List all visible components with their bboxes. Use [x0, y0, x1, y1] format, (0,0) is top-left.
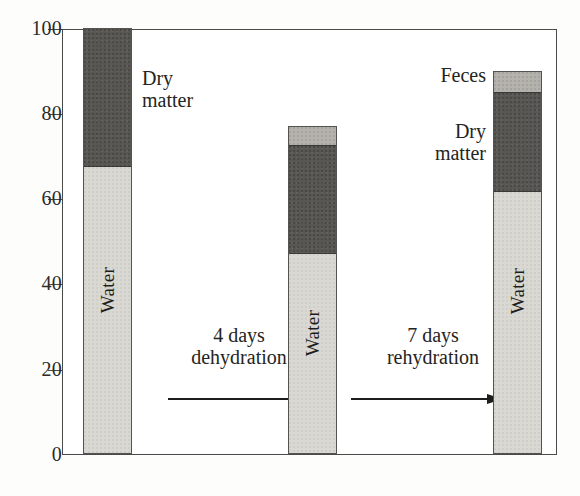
bar-rehydrated-segment-water: Water — [494, 192, 541, 453]
y-tick-label-80: 80 — [18, 103, 62, 123]
bar-dehydrated: Water — [288, 126, 337, 454]
y-tick-label-20: 20 — [18, 359, 62, 379]
plot-area: Water Dry matter 4 days dehydration Wate… — [62, 29, 557, 455]
y-tick-label-100: 100 — [18, 18, 62, 38]
bar-initial-segment-water: Water — [84, 167, 131, 453]
bar-dehydrated-segment-feces — [289, 127, 336, 146]
annotation-dry-matter-initial: Dry matter — [142, 67, 193, 112]
arrow-rehydration — [351, 394, 503, 404]
annotation-feces-rehydrated: Feces — [373, 64, 486, 86]
annotation-rehydration-caption: 7 days rehydration — [353, 324, 513, 369]
annotation-dry-matter-rehydrated: Dry matter — [363, 120, 486, 165]
bar-dehydrated-segment-dry-matter — [289, 146, 336, 254]
bar-rehydrated-segment-feces — [494, 72, 541, 93]
bar-rehydrated-segment-dry-matter — [494, 93, 541, 192]
bar-rehydrated: Water — [493, 71, 542, 454]
y-axis: 100 80 60 40 20 0 — [0, 0, 62, 496]
bar-initial: Water — [83, 28, 132, 454]
y-tick-label-0: 0 — [18, 444, 62, 464]
y-tick-label-40: 40 — [18, 273, 62, 293]
bar-initial-water-label: Water — [97, 267, 119, 313]
bar-initial-segment-dry-matter — [84, 29, 131, 167]
bar-dehydrated-water-label: Water — [302, 310, 324, 356]
chart-figure: 100 80 60 40 20 0 Water Dry matter 4 day… — [0, 0, 580, 496]
bar-dehydrated-segment-water: Water — [289, 254, 336, 453]
bar-rehydrated-water-label: Water — [507, 268, 529, 314]
y-tick-label-60: 60 — [18, 188, 62, 208]
